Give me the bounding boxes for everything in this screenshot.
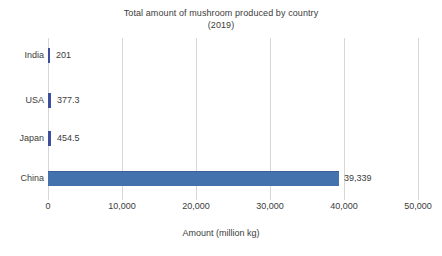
value-label-japan: 454.5 — [57, 130, 80, 146]
chart-title-line1: Total amount of mushroom produced by cou… — [124, 8, 319, 18]
bar-usa[interactable] — [48, 93, 51, 108]
value-label-india: 201 — [56, 47, 71, 63]
bar-china[interactable] — [48, 171, 339, 186]
xtick-label-0: 0 — [45, 200, 50, 212]
chart-title-line2: (2019) — [0, 19, 442, 31]
bar-row-japan: Japan 454.5 — [0, 130, 442, 146]
x-axis-title: Amount (million kg) — [0, 227, 442, 239]
category-label-japan: Japan — [0, 130, 44, 146]
category-label-india: India — [0, 47, 44, 63]
chart-title: Total amount of mushroom produced by cou… — [0, 7, 442, 31]
bar-india[interactable] — [48, 48, 50, 63]
bar-chart: Total amount of mushroom produced by cou… — [0, 0, 442, 256]
bar-row-china: China 39,339 — [0, 170, 442, 186]
bar-japan[interactable] — [48, 131, 51, 146]
category-label-china: China — [0, 170, 44, 186]
xtick-label-20000: 20,000 — [182, 200, 210, 212]
xtick-label-30000: 30,000 — [256, 200, 284, 212]
xtick-label-50000: 50,000 — [404, 200, 432, 212]
category-label-usa: USA — [0, 92, 44, 108]
value-label-china: 39,339 — [344, 170, 372, 186]
bar-row-india: India 201 — [0, 47, 442, 63]
xtick-label-10000: 10,000 — [108, 200, 136, 212]
xtick-label-40000: 40,000 — [330, 200, 358, 212]
bar-row-usa: USA 377.3 — [0, 92, 442, 108]
value-label-usa: 377.3 — [57, 92, 80, 108]
